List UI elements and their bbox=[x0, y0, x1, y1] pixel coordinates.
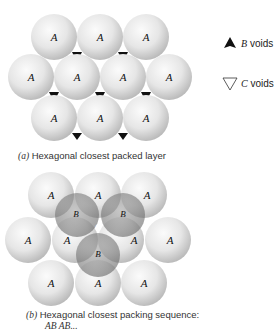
svg-text:B: B bbox=[120, 209, 126, 219]
svg-text:C voids: C voids bbox=[241, 78, 274, 89]
svg-text:A: A bbox=[142, 31, 150, 43]
figure-b-layer: A A A A A A A A A A B B B C bbox=[5, 172, 191, 306]
svg-text:A: A bbox=[94, 189, 102, 201]
svg-text:A: A bbox=[143, 189, 151, 201]
svg-text:A: A bbox=[96, 112, 104, 124]
svg-text:A: A bbox=[166, 234, 174, 246]
caption-b: (b) Hexagonal closest packing sequence: bbox=[26, 309, 199, 320]
svg-text:A: A bbox=[142, 112, 150, 124]
c-void-icon bbox=[223, 78, 237, 90]
legend: B voids C voids bbox=[223, 37, 274, 90]
svg-text:A: A bbox=[73, 71, 81, 83]
svg-text:C: C bbox=[95, 222, 102, 232]
svg-text:A: A bbox=[130, 234, 138, 246]
svg-text:B: B bbox=[73, 209, 79, 219]
svg-text:A: A bbox=[140, 277, 148, 289]
svg-text:B voids: B voids bbox=[241, 38, 273, 49]
b-void-icon bbox=[224, 37, 236, 48]
caption-b-line2: AB AB... bbox=[45, 320, 78, 331]
svg-text:A: A bbox=[50, 112, 58, 124]
svg-text:A: A bbox=[24, 234, 32, 246]
caption-a: (a) Hexagonal closest packed layer bbox=[18, 150, 166, 161]
svg-text:A: A bbox=[47, 189, 55, 201]
svg-text:A: A bbox=[165, 71, 173, 83]
svg-text:A: A bbox=[94, 277, 102, 289]
svg-text:A: A bbox=[96, 31, 104, 43]
svg-text:A: A bbox=[50, 31, 58, 43]
svg-text:A: A bbox=[27, 71, 35, 83]
svg-text:A: A bbox=[119, 71, 127, 83]
svg-text:B: B bbox=[95, 249, 101, 259]
svg-text:A: A bbox=[63, 234, 71, 246]
svg-text:A: A bbox=[47, 277, 55, 289]
figure-a-layer: A A A A A A A A A A bbox=[8, 14, 192, 141]
